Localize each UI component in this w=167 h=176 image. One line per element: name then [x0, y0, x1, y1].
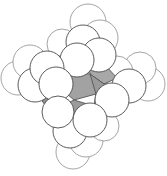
molecule-canvas [0, 0, 167, 176]
molecule-figure [0, 0, 167, 176]
atom-sphere [73, 103, 107, 137]
atom-sphere [42, 96, 74, 128]
